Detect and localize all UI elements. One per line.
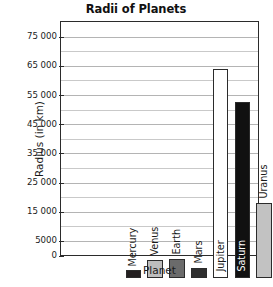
y-tick-label: 5000 — [0, 235, 57, 245]
y-tick-mark — [59, 183, 64, 184]
y-tick-mark — [59, 153, 64, 154]
bar-series: MercuryVenusEarthMarsJupiterSaturnUranus… — [123, 44, 273, 278]
y-tick-label: 25 000 — [0, 177, 57, 187]
y-tick-label: 55 000 — [0, 90, 57, 100]
y-tick-mark — [59, 212, 64, 213]
y-tick-mark — [59, 241, 64, 242]
y-tick-mark — [59, 37, 64, 38]
chart-title: Radii of Planets — [0, 2, 272, 16]
bar-label-mars: Mars — [194, 241, 204, 264]
y-tick-label: 45 000 — [0, 119, 57, 129]
gridline-major — [61, 37, 258, 38]
y-tick-label: 0 — [0, 250, 57, 260]
bar-label-uranus: Uranus — [259, 165, 269, 199]
x-axis-title: Planet — [60, 264, 259, 276]
bar-jupiter[interactable] — [213, 69, 229, 278]
plot-area: MercuryVenusEarthMarsJupiterSaturnUranus… — [60, 21, 259, 256]
bar-label-venus: Venus — [150, 227, 160, 256]
bar-label-earth: Earth — [172, 229, 182, 255]
y-tick-label: 15 000 — [0, 206, 57, 216]
y-tick-label: 35 000 — [0, 148, 57, 158]
y-tick-label: 65 000 — [0, 60, 57, 70]
bar-chart: Radii of Planets Radius (in km) MercuryV… — [0, 0, 272, 287]
bar-saturn[interactable] — [235, 102, 251, 278]
y-tick-mark — [59, 124, 64, 125]
y-tick-mark — [59, 95, 64, 96]
y-tick-label: 75 000 — [0, 31, 57, 41]
y-tick-mark — [59, 256, 64, 257]
bar-label-mercury: Mercury — [129, 228, 139, 267]
y-tick-mark — [59, 66, 64, 67]
